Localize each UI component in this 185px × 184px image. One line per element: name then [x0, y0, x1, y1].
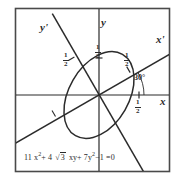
figure-frame: [16, 9, 170, 172]
y-axis-label: y: [101, 17, 106, 28]
fraction-one-half-x-prime: 1 2: [124, 52, 130, 69]
tick-half-y-prime: 1 2: [63, 52, 69, 69]
conic-rotation-figure: y' y x' x 30° 1 2 1 2 1 2 1 2: [0, 0, 185, 184]
fraction-denominator: 2: [124, 61, 130, 68]
equation-lead-coefficient: 11: [24, 153, 32, 162]
equation-constant: 1: [100, 153, 104, 162]
x-prime-axis-line: [10, 51, 175, 146]
fraction-one-half-x: 1 2: [135, 99, 141, 116]
tick-half-y: 1 2: [95, 44, 101, 61]
x-axis-label: x: [160, 96, 166, 107]
conic-equation: 11 x2+ 4 √3 xy+ 7y2−1 =0: [24, 152, 115, 162]
tick-half-x-prime: 1 2: [124, 52, 130, 69]
equation-rhs: 0: [111, 153, 115, 162]
tick-half-x: 1 2: [135, 99, 141, 116]
y-prime-axis-label: y': [40, 22, 48, 33]
fraction-denominator: 2: [95, 53, 101, 60]
fraction-denominator: 2: [135, 108, 141, 115]
tick-mark-y-prime-half: [68, 57, 74, 61]
equation-xy-term: xy: [69, 153, 77, 162]
fraction-numerator: 1: [95, 44, 101, 51]
angle-label-30deg: 30°: [134, 74, 145, 82]
fraction-one-half-y-prime: 1 2: [63, 52, 69, 69]
equation-y-squared: 7y2: [84, 153, 95, 162]
fraction-one-half-y: 1 2: [95, 44, 101, 61]
equation-plus-2: +: [77, 153, 82, 162]
x-prime-axis-label: x': [156, 34, 165, 45]
equation-xy-coefficient: 4: [48, 153, 52, 162]
radicand-value: 3: [60, 152, 66, 162]
fraction-numerator: 1: [135, 99, 141, 106]
equation-square-root: √3: [54, 152, 67, 162]
tick-mark-x-prime-negative: [52, 111, 56, 117]
fraction-numerator: 1: [63, 52, 69, 59]
equation-plus-1: +: [41, 153, 46, 162]
fraction-numerator: 1: [124, 52, 130, 59]
fraction-denominator: 2: [63, 61, 69, 68]
